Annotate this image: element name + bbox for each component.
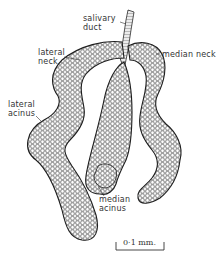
leader-lateral-acinus xyxy=(36,116,42,122)
label-lateral-acinus: lateral acinus xyxy=(8,100,35,118)
scale-bar-label: 0·1 mm. xyxy=(123,238,156,247)
label-median-acinus: median acinus xyxy=(99,195,130,213)
label-lateral-neck: lateral neck xyxy=(38,48,65,66)
salivary-duct xyxy=(120,10,134,70)
label-salivary-duct: salivary duct xyxy=(83,14,116,32)
leader-salivary-duct xyxy=(120,22,126,24)
label-median-neck: median neck xyxy=(162,50,216,59)
median-neck-lobe xyxy=(128,43,181,204)
salivary-gland-illustration xyxy=(0,0,220,262)
